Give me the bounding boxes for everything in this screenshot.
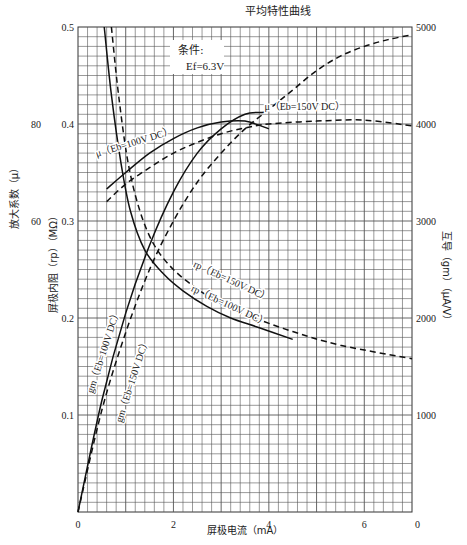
condition-box: 条件: Ef=6.3V [170, 40, 224, 74]
chart-title: 平均特性曲线 [245, 4, 311, 18]
rp-tick-label: 0.4 [62, 119, 75, 130]
rp-axis-label: 屏极内阻（rp）（MΩ） [47, 211, 59, 313]
grid [78, 27, 412, 512]
mu-tick-label: 80 [31, 119, 41, 130]
rp-tick-label: 0.3 [62, 216, 75, 227]
rp-tick-label: 0.1 [62, 410, 75, 421]
rp-tick-label: 0.5 [62, 22, 75, 33]
mu-axis-label: 放大系数（μ） [8, 163, 20, 229]
curve-label: μ（Eb=150V DC） [264, 101, 345, 112]
gm-tick-label: 2000 [416, 313, 436, 324]
x-tick-label: 2 [171, 519, 176, 530]
gm-tick-label: 3000 [416, 216, 436, 227]
mu-tick-label: 60 [31, 216, 41, 227]
gm-axis-label: 互导（gm）（μA/V） [441, 231, 452, 326]
condition-label: 条件: [178, 43, 204, 57]
x-axis-label: 屏极电流（mA） [207, 524, 284, 536]
gm-tick-label: 0 [415, 519, 420, 530]
x-tick-label: 0 [76, 519, 81, 530]
characteristic-curves-chart: 02460.10.20.30.40.5608010002000300040005… [0, 0, 467, 545]
gm-tick-label: 4000 [416, 119, 436, 130]
rp-tick-label: 0.2 [62, 313, 75, 324]
gm-tick-label: 1000 [416, 410, 436, 421]
condition-value: Ef=6.3V [186, 60, 224, 72]
gm-tick-label: 5000 [416, 22, 436, 33]
x-tick-label: 6 [362, 519, 367, 530]
